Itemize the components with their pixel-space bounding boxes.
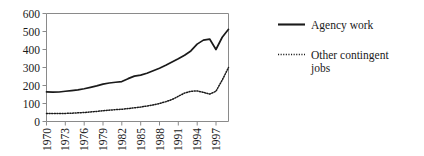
x-tick-label: 1988 (154, 128, 166, 151)
x-tick-labels: 1970 1973 1976 1979 1982 1985 1988 1991 … (41, 128, 223, 151)
x-tick-marks (47, 122, 217, 126)
legend-label-other-contingent-jobs-line1: Other contingent (311, 49, 389, 62)
y-tick-label: 300 (23, 62, 41, 74)
legend-label-other-contingent-jobs-line2: jobs (310, 62, 331, 75)
legend-label-agency-work: Agency work (311, 19, 374, 32)
x-tick-label: 1979 (97, 128, 109, 151)
x-tick-label: 1991 (172, 128, 184, 151)
chart-legend: Agency work Other contingent jobs (278, 19, 389, 75)
y-tick-marks (43, 14, 47, 122)
y-tick-label: 500 (23, 26, 41, 38)
y-tick-label: 200 (23, 80, 41, 92)
y-tick-labels: 600 500 400 300 200 100 0 (23, 8, 41, 128)
y-tick-label: 600 (23, 8, 41, 20)
plot-axes (47, 14, 229, 122)
y-tick-label: 0 (34, 116, 40, 128)
series-line-agency-work (47, 29, 229, 92)
x-tick-label: 1982 (116, 128, 128, 151)
x-tick-label: 1973 (59, 128, 71, 151)
x-tick-label: 1997 (210, 128, 222, 151)
line-chart: 600 500 400 300 200 100 0 1970 1973 1976 (0, 0, 424, 156)
chart-figure: 600 500 400 300 200 100 0 1970 1973 1976 (0, 0, 424, 156)
y-tick-label: 400 (23, 44, 41, 56)
x-tick-label: 1994 (191, 128, 203, 151)
x-tick-label: 1970 (41, 128, 53, 151)
y-tick-label: 100 (23, 98, 41, 110)
x-tick-label: 1985 (135, 128, 147, 151)
x-tick-label: 1976 (78, 128, 90, 151)
data-series-group (47, 29, 229, 113)
